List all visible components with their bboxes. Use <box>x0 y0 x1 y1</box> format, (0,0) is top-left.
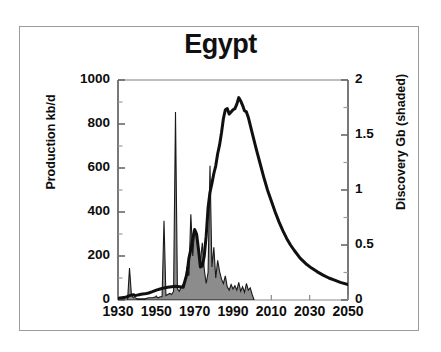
y-tick-label-right: 1 <box>355 181 363 196</box>
x-tick-label: 2050 <box>324 303 372 319</box>
y-tick-label-left: 1000 <box>80 71 110 86</box>
y-tick-label-right: 2 <box>355 71 363 86</box>
y-tick-label-left: 200 <box>87 247 110 262</box>
chart-figure: Egypt Production kb/d Discovery Gb (shad… <box>0 0 441 352</box>
y-axis-label-left: Production kb/d <box>44 52 58 232</box>
y-tick-label-left: 800 <box>87 115 110 130</box>
y-tick-label-right: 1.5 <box>355 126 374 141</box>
y-tick-label-left: 400 <box>87 203 110 218</box>
chart-plot <box>0 0 441 352</box>
plot-background <box>118 80 348 300</box>
y-axis-label-right: Discovery Gb (shaded) <box>394 42 408 242</box>
y-tick-label-left: 600 <box>87 159 110 174</box>
y-tick-label-right: 0.5 <box>355 236 374 251</box>
